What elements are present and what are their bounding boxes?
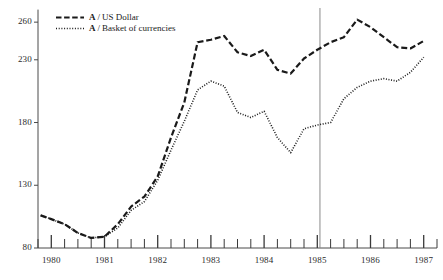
x-tick-label: 1986 (354, 255, 388, 265)
legend-item-us-dollar: A / US Dollar (56, 12, 175, 23)
x-tick-label: 1982 (141, 255, 175, 265)
legend-series-code: A (89, 12, 96, 23)
legend-item-basket-of-currencies: A / Basket of currencies (56, 23, 175, 34)
legend-label: US Dollar (102, 12, 139, 23)
chart-legend: A / US Dollar A / Basket of currencies (56, 12, 175, 34)
data-series-lines (41, 20, 424, 238)
y-tick-label: 230 (6, 54, 32, 64)
series-line-us-dollar (41, 20, 424, 238)
x-tick-label: 1984 (247, 255, 281, 265)
legend-label: Basket of currencies (102, 23, 175, 34)
dotted-line-marker (56, 24, 84, 33)
x-tick-label: 1981 (88, 255, 122, 265)
plot-area (0, 0, 443, 280)
currency-index-line-chart: 80130180230260 1980198119821983198419851… (0, 0, 443, 280)
y-tick-label: 180 (6, 117, 32, 127)
x-tick-label: 1980 (34, 255, 68, 265)
legend-separator: / (98, 23, 101, 34)
x-tick-label: 1983 (194, 255, 228, 265)
series-line-basket-of-currencies (41, 57, 424, 238)
legend-series-code: A (89, 23, 96, 34)
x-tick-label: 1985 (300, 255, 334, 265)
dashed-line-marker (56, 13, 84, 22)
axes-group (34, 10, 437, 248)
y-tick-label: 130 (6, 179, 32, 189)
legend-separator: / (98, 12, 101, 23)
x-tick-label: 1987 (407, 255, 441, 265)
y-tick-label: 260 (6, 16, 32, 26)
y-tick-label: 80 (6, 242, 32, 252)
